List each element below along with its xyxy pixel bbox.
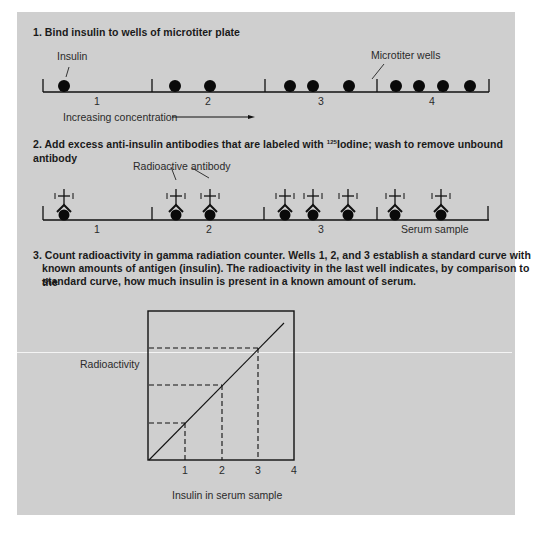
antibody-pointer-2 [192, 168, 209, 178]
standard-curve-chart [148, 311, 294, 460]
diagram-graphics [0, 0, 534, 533]
microtiter-plate-step2 [43, 167, 489, 221]
insulin-pointer [66, 67, 69, 77]
microtiter-plate-step1 [43, 64, 489, 119]
wells-pointer [372, 64, 384, 79]
standard-curve-line [149, 323, 284, 460]
insulin-molecules [58, 80, 476, 92]
antibody-pointer-1 [171, 167, 176, 180]
